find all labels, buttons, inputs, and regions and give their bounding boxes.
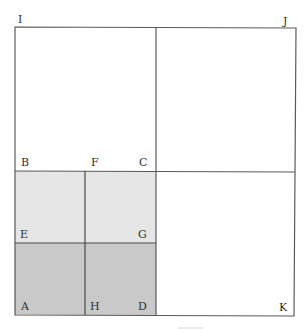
- label-point-j: J: [282, 15, 287, 28]
- label-point-b: B: [21, 156, 29, 169]
- label-point-h: H: [90, 300, 100, 313]
- label-point-d: D: [138, 300, 147, 313]
- label-point-g: G: [138, 228, 147, 241]
- label-point-i: I: [18, 13, 22, 26]
- label-point-a: A: [20, 300, 30, 313]
- label-point-c: C: [139, 156, 147, 169]
- label-point-e: E: [20, 228, 28, 241]
- label-point-f: F: [91, 156, 99, 169]
- diagram-canvas: I J B F C E G A H D K: [0, 0, 307, 329]
- label-point-k: K: [279, 301, 288, 314]
